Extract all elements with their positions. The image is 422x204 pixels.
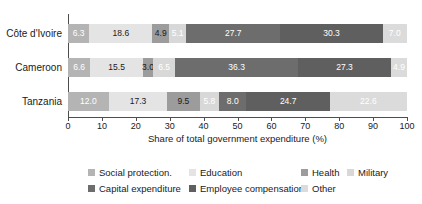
legend-swatch [189,169,196,176]
legend-swatch [301,185,308,192]
bar-segment: 3.0 [143,58,153,77]
legend-item: Capital expenditure [88,183,189,194]
bar-segment: 27.7 [186,24,280,43]
bar-segment-label: 4.9 [393,63,405,72]
bar-segment: 6.6 [68,58,90,77]
bar-segment-label: 24.7 [280,97,297,106]
bar-segment: 30.3 [280,24,383,43]
x-axis-title: Share of total government expenditure (%… [68,134,407,144]
bar-segment-label: 6.3 [73,29,85,38]
legend-swatch [347,169,354,176]
bar-segment-label: 12.0 [80,97,97,106]
x-tick-label: 40 [199,122,209,131]
bar-segment-label: 6.6 [73,63,85,72]
bar-segment-label: 15.5 [108,63,125,72]
legend-label: Employee compensation [200,183,304,194]
legend-label: Military [358,167,388,178]
stacked-bar-chart: Côte d'IvoireCameroonTanzania 6.318.64.9… [0,0,422,204]
legend-row: Social protection.EducationHealthMilitar… [88,164,418,180]
x-tick-label: 30 [165,122,175,131]
bar-segment-label: 8.0 [227,97,239,106]
legend-label: Capital expenditure [99,183,181,194]
bar-segment: 36.3 [175,58,298,77]
bar-segment: 18.6 [89,24,152,43]
bar-row: 6.318.64.95.127.730.37.0 [68,24,407,43]
bar-segment: 15.5 [90,58,143,77]
category-label: Cameroon [0,63,62,73]
bar-segment: 5.8 [200,92,220,111]
x-tick-label: 70 [300,122,310,131]
x-tick-label: 10 [97,122,107,131]
x-tick-label: 50 [232,122,242,131]
bar-segment: 4.9 [391,58,407,77]
bar-segment: 27.3 [298,58,391,77]
legend-item: Employee compensation [189,183,301,194]
legend-swatch [189,185,196,192]
legend: Social protection.EducationHealthMilitar… [88,164,418,196]
legend-swatch [88,169,95,176]
bar-segment: 7.0 [383,24,407,43]
legend-item: Military [347,167,388,178]
bar-segment: 24.7 [246,92,330,111]
bar-segment-label: 18.6 [113,29,130,38]
category-label: Tanzania [0,97,62,107]
category-label: Côte d'Ivoire [0,29,62,39]
x-tick-label: 90 [368,122,378,131]
x-tick-label: 60 [266,122,276,131]
bar-segment-label: 27.7 [225,29,242,38]
legend-row: Capital expenditureEmployee compensation… [88,180,418,196]
legend-item: Other [301,183,347,194]
legend-label: Social protection. [99,167,172,178]
bar-row: 6.615.53.06.536.327.34.9 [68,58,407,77]
plot-area: 6.318.64.95.127.730.37.06.615.53.06.536.… [68,14,407,117]
legend-label: Health [312,167,339,178]
x-tick-label: 100 [399,122,414,131]
bar-segment-label: 5.1 [172,29,184,38]
bar-segment: 22.6 [330,92,407,111]
bar-segment-label: 36.3 [228,63,245,72]
bar-segment-label: 30.3 [323,29,340,38]
bar-segment: 17.3 [109,92,168,111]
legend-label: Education [200,167,242,178]
bar-segment: 12.0 [68,92,109,111]
bar-segment-label: 4.9 [155,29,167,38]
legend-label: Other [312,183,336,194]
bar-segment-label: 7.0 [389,29,401,38]
bar-segment-label: 5.8 [203,97,215,106]
bar-segment-label: 27.3 [336,63,353,72]
bar-segment: 5.1 [169,24,186,43]
bar-segment: 6.3 [68,24,89,43]
bar-segment-label: 22.6 [360,97,377,106]
bar-segment: 6.5 [153,58,175,77]
bar-row: 12.017.39.55.88.024.722.6 [68,92,407,111]
legend-item: Education [189,167,301,178]
x-tick-label: 0 [65,122,70,131]
bar-segment-label: 17.3 [130,97,147,106]
legend-swatch [301,169,308,176]
x-tick-label: 20 [131,122,141,131]
legend-item: Social protection. [88,167,189,178]
legend-item: Health [301,167,347,178]
bar-segment: 4.9 [152,24,169,43]
bar-segment-label: 9.5 [178,97,190,106]
bar-segment: 9.5 [167,92,199,111]
x-tick-label: 80 [334,122,344,131]
bar-segment-label: 6.5 [158,63,170,72]
legend-swatch [88,185,95,192]
bar-segment: 8.0 [219,92,246,111]
